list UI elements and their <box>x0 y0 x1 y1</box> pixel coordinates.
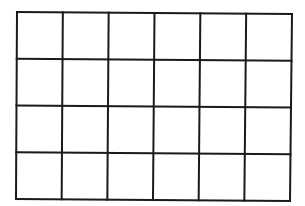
grid-canvas <box>0 0 305 206</box>
grid-horizontal-line <box>17 12 292 14</box>
grid-horizontal-line <box>17 106 292 108</box>
grid-horizontal-line <box>16 199 290 201</box>
grid-diagram <box>0 0 305 206</box>
grid-horizontal-line <box>17 59 292 61</box>
grid-horizontal-line <box>16 152 290 154</box>
